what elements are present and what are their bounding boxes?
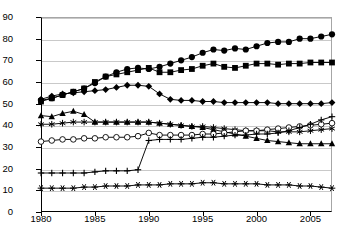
y-tick-label: 0 [0,207,13,217]
x-tick-mark [95,212,96,216]
y-tick-label: 10 [0,185,13,195]
x-tick-mark [149,212,150,216]
x-tick-mark [41,212,42,216]
y-tick-label: 90 [0,12,13,22]
y-tick-label: 60 [0,77,13,87]
y-tick-label: 20 [0,164,13,174]
y-tick-label: 80 [0,34,13,44]
x-tick-mark [203,212,204,216]
x-tick-mark [257,212,258,216]
chart-container: Electricity from coal (% of total) 01020… [0,0,349,243]
y-tick-label: 40 [0,120,13,130]
series-filled-square [38,60,335,105]
series-asterisk [38,180,336,191]
y-tick-label: 30 [0,142,13,152]
y-tick-label: 50 [0,99,13,109]
series-line [41,63,332,102]
x-tick-mark [310,212,311,216]
y-tick-label: 70 [0,55,13,65]
series-layer [41,17,332,212]
